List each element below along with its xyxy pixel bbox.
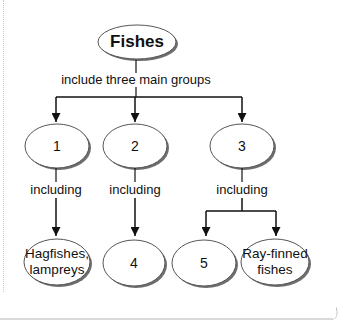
leaf-5-label: 5 [200, 255, 208, 271]
relation-3-label: including [216, 183, 267, 198]
relation-2-label: including [109, 183, 160, 198]
leaf-rayfinned-line-1: Ray-finned [242, 246, 307, 262]
leaf-4-label: 4 [130, 255, 138, 271]
group-3-label: 3 [238, 138, 246, 154]
group-2-label: 2 [131, 138, 139, 154]
root-relation-label: include three main groups [61, 73, 211, 88]
leaf-rayfinned-label: Ray-finned fishes [242, 246, 307, 277]
group-1-label: 1 [53, 138, 61, 154]
leaf-hagfishes-line-1: Hagfishes, [25, 246, 89, 262]
leaf-hagfishes-label: Hagfishes, lampreys [25, 246, 89, 277]
relation-1-label: including [30, 183, 81, 198]
leaf-rayfinned-line-2: fishes [242, 262, 307, 278]
root-node-label: Fishes [110, 32, 164, 52]
leaf-hagfishes-line-2: lampreys [25, 262, 89, 278]
